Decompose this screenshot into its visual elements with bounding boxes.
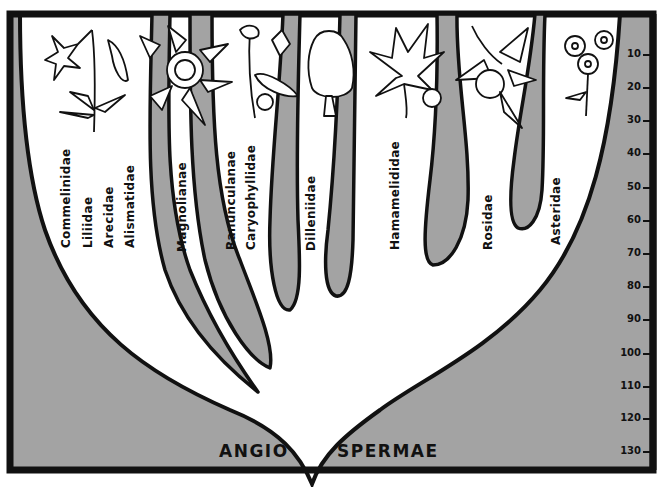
time-scale-tick-100: 100 — [611, 347, 641, 358]
lineage-label-caryophyllidae: Caryophyllidae — [244, 145, 258, 250]
title-spermae: SPERMAE — [337, 441, 439, 461]
lineage-label-ranunculanae: Ranunculanae — [224, 151, 238, 250]
time-scale-tick-20: 20 — [611, 81, 641, 92]
time-scale-tick-130: 130 — [611, 445, 641, 456]
lineage-label-magnolianae: Magnolianae — [175, 162, 189, 252]
time-scale-tick-80: 80 — [611, 280, 641, 291]
lineage-label-commelinidae: Commelinidae — [59, 148, 73, 248]
time-scale-tick-120: 120 — [611, 412, 641, 423]
time-scale-tick-70: 70 — [611, 247, 641, 258]
lineage-label-liliidae: Liliidae — [81, 197, 95, 248]
lineage-label-dilleniidae: Dilleniidae — [304, 176, 318, 251]
time-scale-tick-60: 60 — [611, 214, 641, 225]
angiosperm-phylogeny-diagram: Commelinidae Liliidae Arecidae Alismatid… — [0, 0, 661, 487]
time-scale-tick-50: 50 — [611, 181, 641, 192]
lineage-label-arecidae: Arecidae — [102, 186, 116, 248]
time-scale-tick-30: 30 — [611, 114, 641, 125]
lineage-label-asteridae: Asteridae — [549, 177, 563, 245]
time-scale-tick-10: 10 — [611, 48, 641, 59]
title-angio: ANGIO — [219, 441, 289, 461]
time-scale-tick-110: 110 — [611, 380, 641, 391]
lineage-label-hamamelididae: Hamamelididae — [388, 141, 402, 250]
time-scale-tick-40: 40 — [611, 147, 641, 158]
lineage-label-alismatidae: Alismatidae — [123, 165, 137, 248]
lineage-label-rosidae: Rosidae — [481, 194, 495, 250]
time-scale-tick-90: 90 — [611, 313, 641, 324]
